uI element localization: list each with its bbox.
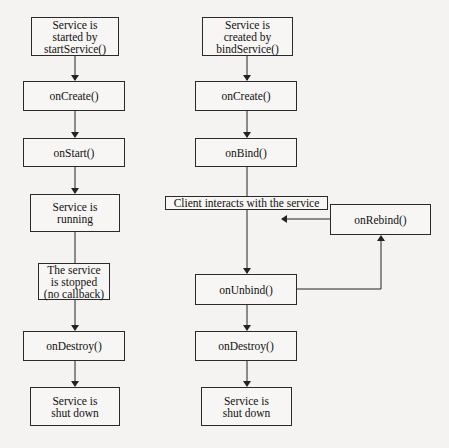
node-left-shut-down: Service is shut down <box>30 387 120 426</box>
node-service-stopped: The service is stopped (no callback) <box>38 263 110 300</box>
node-right-shut-down: Service is shut down <box>201 387 292 426</box>
node-right-oncreate: onCreate() <box>195 81 297 111</box>
node-onrebind: onRebind() <box>330 204 431 235</box>
edge-onunbind-onrebind <box>297 236 381 289</box>
node-service-running: Service is running <box>30 194 120 232</box>
node-right-ondestroy: onDestroy() <box>195 331 297 361</box>
node-onstart: onStart() <box>23 138 125 167</box>
node-onunbind: onUnbind() <box>195 274 297 305</box>
node-left-oncreate: onCreate() <box>23 81 125 111</box>
node-client-interacts: Client interacts with the service <box>165 196 328 210</box>
node-created-by-bindservice: Service is created by bindService() <box>202 17 293 56</box>
node-left-ondestroy: onDestroy() <box>23 331 125 361</box>
lifecycle-diagram: Service is started by startService() onC… <box>0 0 449 448</box>
node-started-by-startservice: Service is started by startService() <box>31 17 119 56</box>
node-onbind: onBind() <box>195 138 297 167</box>
